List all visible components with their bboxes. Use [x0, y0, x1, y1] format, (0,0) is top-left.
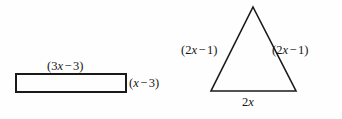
math-token-paren: ) — [79, 59, 83, 73]
math-token-paren: ) — [155, 76, 159, 90]
math-token-op: − — [197, 43, 207, 57]
math-token-paren: ) — [304, 43, 308, 57]
geometry-figure: (3x−3) (x−3) (2x−1) (2x−1) 2x — [0, 0, 342, 119]
math-token-op: − — [139, 76, 149, 90]
math-token-op: − — [288, 43, 298, 57]
math-token-var: x — [248, 95, 254, 109]
triangle-right-side-label: (2x−1) — [272, 44, 308, 57]
math-token-var: x — [133, 76, 139, 90]
rectangle-top-label: (3x−3) — [47, 60, 83, 73]
math-token-op: − — [63, 59, 73, 73]
triangle-base-label: 2x — [242, 96, 254, 109]
math-token-paren: ) — [213, 43, 217, 57]
rectangle-shape — [16, 74, 126, 92]
rectangle-right-label: (x−3) — [129, 77, 159, 90]
triangle-left-side-label: (2x−1) — [181, 44, 217, 57]
